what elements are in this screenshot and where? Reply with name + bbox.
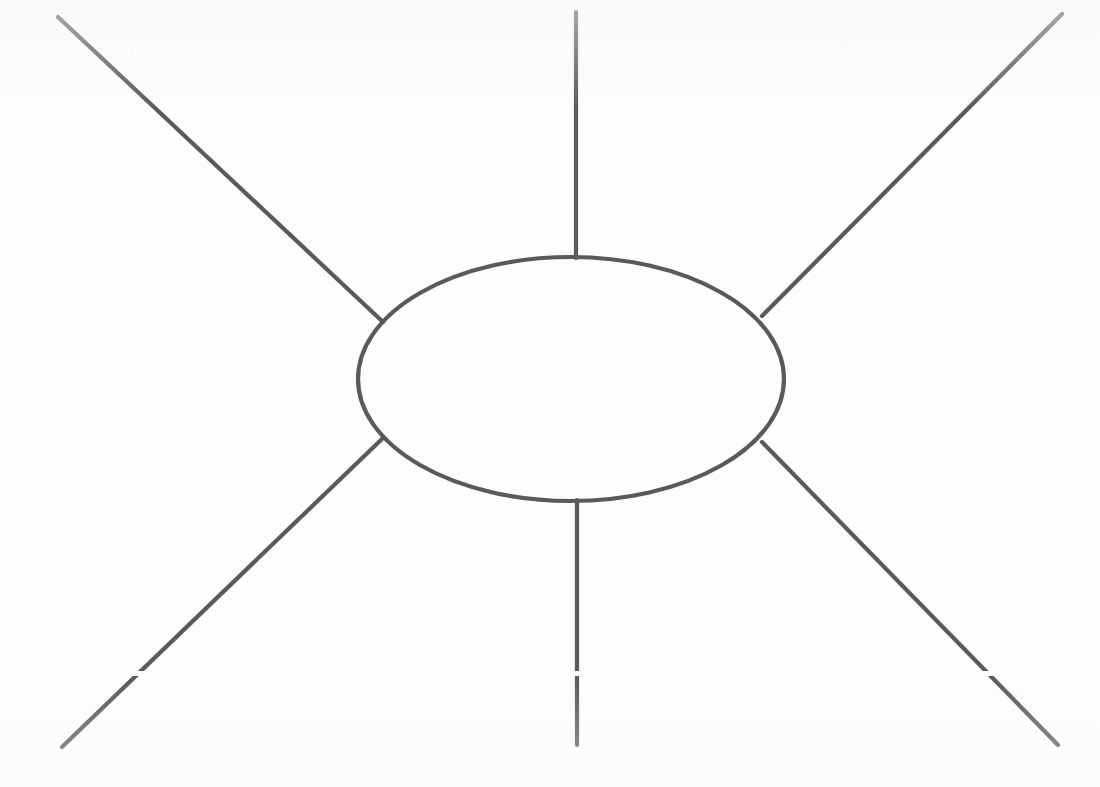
lower-right-leg — [762, 442, 1058, 745]
lower-left-leg — [62, 438, 383, 747]
central-blob-ellipse — [358, 257, 784, 501]
radiating-lines-group — [58, 12, 1062, 747]
figure-canvas — [0, 0, 1100, 787]
diagram-svg — [0, 0, 1100, 787]
upper-left-leg — [58, 17, 383, 322]
upper-right-leg — [762, 14, 1062, 316]
